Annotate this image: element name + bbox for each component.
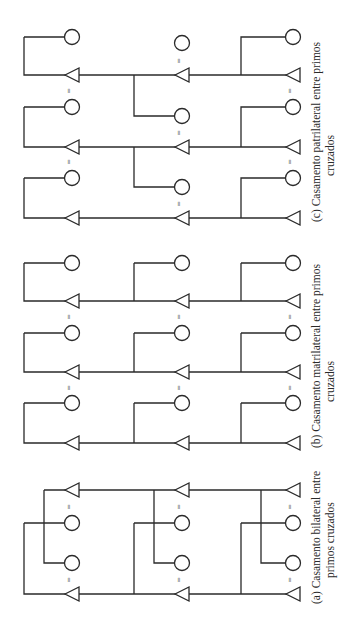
- female-circle-icon: [65, 556, 80, 571]
- marriage-equals-sign: =: [174, 504, 184, 509]
- male-triangle-icon: [286, 294, 300, 308]
- male-triangle-icon: [175, 211, 189, 225]
- marriage-equals-sign: =: [285, 314, 295, 319]
- male-triangle-icon: [175, 68, 189, 82]
- male-triangle-icon: [175, 587, 189, 601]
- male-triangle-icon: [65, 483, 79, 497]
- male-triangle-icon: [65, 140, 79, 154]
- female-circle-icon: [286, 256, 301, 271]
- marriage-equals-sign: =: [174, 130, 184, 135]
- male-triangle-icon: [286, 68, 300, 82]
- male-triangle-icon: [65, 68, 79, 82]
- female-circle-icon: [65, 100, 80, 115]
- marriage-equals-sign: =: [174, 58, 184, 63]
- female-circle-icon: [175, 256, 190, 271]
- female-circle-icon: [65, 171, 80, 186]
- panel-c-caption-line1: (c) Casamento patrilateral entre primos: [310, 41, 323, 222]
- marriage-equals-sign: =: [64, 504, 74, 509]
- marriage-equals-sign: =: [64, 385, 74, 390]
- male-triangle-icon: [286, 587, 300, 601]
- female-circle-icon: [286, 30, 301, 45]
- male-triangle-icon: [175, 140, 189, 154]
- male-triangle-icon: [65, 365, 79, 379]
- marriage-equals-sign: =: [174, 314, 184, 319]
- male-triangle-icon: [175, 365, 189, 379]
- panel-b-matrilateral: = = = = = = (b) Casamento matrilateral e…: [24, 256, 336, 451]
- male-triangle-icon: [286, 436, 300, 450]
- male-triangle-icon: [175, 294, 189, 308]
- female-circle-icon: [175, 516, 190, 531]
- female-circle-icon: [286, 396, 301, 411]
- marriage-equals-sign: =: [174, 385, 184, 390]
- female-circle-icon: [175, 326, 190, 341]
- panel-b-caption-line1: (b) Casamento matrilateral entre primos: [310, 264, 323, 448]
- marriage-equals-sign: =: [64, 159, 74, 164]
- panel-b-caption-line2: cruzados: [324, 361, 336, 402]
- female-circle-icon: [286, 516, 301, 531]
- female-circle-icon: [65, 396, 80, 411]
- marriage-equals-sign: =: [64, 577, 74, 582]
- panel-a-bilateral: = = = = = = (a) Casamento bilateral entr…: [24, 471, 337, 604]
- panel-c-caption-line2: cruzados: [324, 135, 336, 176]
- marriage-equals-sign: =: [64, 88, 74, 93]
- female-circle-icon: [175, 556, 190, 571]
- panel-c-patrilateral: = = = = = = = (c) Casamento patrilateral…: [24, 30, 336, 226]
- male-triangle-icon: [175, 436, 189, 450]
- female-circle-icon: [175, 396, 190, 411]
- marriage-equals-sign: =: [285, 577, 295, 582]
- panel-c-left-column: [24, 37, 66, 218]
- marriage-equals-sign: =: [174, 577, 184, 582]
- panel-a-caption-line2: primos cruzados: [324, 502, 337, 578]
- male-triangle-icon: [65, 211, 79, 225]
- marriage-equals-sign: =: [64, 314, 74, 319]
- male-triangle-icon: [286, 483, 300, 497]
- female-circle-icon: [286, 100, 301, 115]
- marriage-equals-sign: =: [285, 159, 295, 164]
- male-triangle-icon: [175, 483, 189, 497]
- female-circle-icon: [175, 180, 190, 195]
- male-triangle-icon: [65, 587, 79, 601]
- male-triangle-icon: [65, 436, 79, 450]
- female-circle-icon: [175, 109, 190, 124]
- male-triangle-icon: [286, 211, 300, 225]
- marriage-equals-sign: =: [285, 385, 295, 390]
- female-circle-icon: [286, 171, 301, 186]
- marriage-equals-sign: =: [174, 201, 184, 206]
- female-circle-icon: [286, 556, 301, 571]
- kinship-diagram-figure: = = = = = = = (c) Casamento patrilateral…: [0, 0, 358, 624]
- male-triangle-icon: [286, 140, 300, 154]
- female-circle-icon: [175, 36, 190, 51]
- female-circle-icon: [65, 516, 80, 531]
- female-circle-icon: [65, 30, 80, 45]
- panel-a-caption-line1: (a) Casamento bilateral entre: [310, 471, 323, 604]
- female-circle-icon: [65, 256, 80, 271]
- male-triangle-icon: [65, 294, 79, 308]
- female-circle-icon: [286, 326, 301, 341]
- marriage-equals-sign: =: [285, 88, 295, 93]
- male-triangle-icon: [286, 365, 300, 379]
- female-circle-icon: [65, 326, 80, 341]
- marriage-equals-sign: =: [285, 504, 295, 509]
